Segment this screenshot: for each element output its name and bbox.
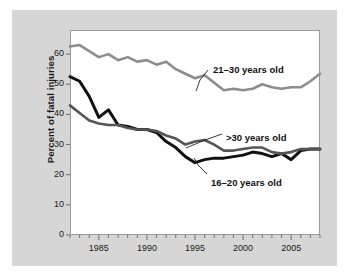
data-series-lines xyxy=(70,45,320,163)
chart-figure: Percent of fatal injuries 0102030405060 … xyxy=(0,0,349,276)
axis-tickmarks xyxy=(66,54,320,240)
series-line-21-30-years-old xyxy=(70,45,320,90)
series-line--30-years-old xyxy=(70,105,320,153)
chart-lines xyxy=(0,0,349,276)
leader-21-30 xyxy=(196,70,208,91)
